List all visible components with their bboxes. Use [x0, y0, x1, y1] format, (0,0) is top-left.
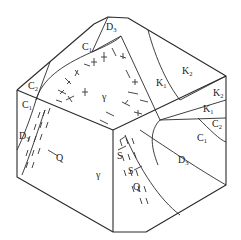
label-q-left: Q	[56, 152, 64, 163]
label-c2-right: C2	[212, 118, 222, 130]
top-face-contacts	[36, 17, 180, 165]
label-d3-top: D3	[106, 21, 116, 33]
label-q-right: Q	[133, 181, 141, 192]
block-outline	[17, 17, 226, 232]
label-k2-top: K2	[182, 65, 192, 77]
label-s-right-1: S	[117, 150, 123, 161]
label-k2-right: K2	[213, 87, 223, 99]
label-c1-top: C1	[82, 41, 92, 53]
label-gamma-top: γ	[101, 91, 107, 102]
block-diagram-svg: C2 C1 D3 γ K1 K2 C1 D3 Q γ K2 K1 C2 C1 D…	[0, 0, 241, 240]
label-gamma-left: γ	[95, 169, 101, 180]
label-d3-right: D3	[178, 154, 188, 166]
unit-labels: C2 C1 D3 γ K1 K2 C1 D3 Q γ K2 K1 C2 C1 D…	[19, 21, 223, 192]
foliation-symbols	[56, 48, 148, 124]
geological-block-diagram: C2 C1 D3 γ K1 K2 C1 D3 Q γ K2 K1 C2 C1 D…	[0, 0, 241, 240]
label-k1-top: K1	[156, 77, 166, 89]
label-c1-right: C1	[197, 132, 207, 144]
label-c1-left: C1	[22, 99, 32, 111]
label-c2-top-left: C2	[28, 80, 38, 92]
label-s-right-2: S	[128, 165, 134, 176]
label-k1-right: K1	[203, 103, 213, 115]
label-d3-left: D3	[19, 130, 29, 142]
